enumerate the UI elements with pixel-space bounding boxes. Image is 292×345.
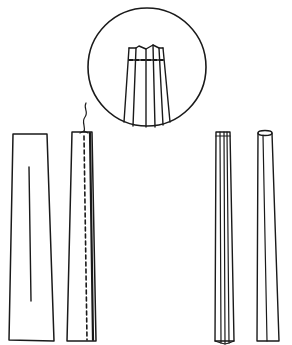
pleated-strip [215,132,234,344]
pleating-diagram [0,0,292,345]
finished-tube [257,131,279,342]
detail-circle [88,8,206,127]
stitched-strip [67,103,96,341]
flat-strip [9,134,54,341]
